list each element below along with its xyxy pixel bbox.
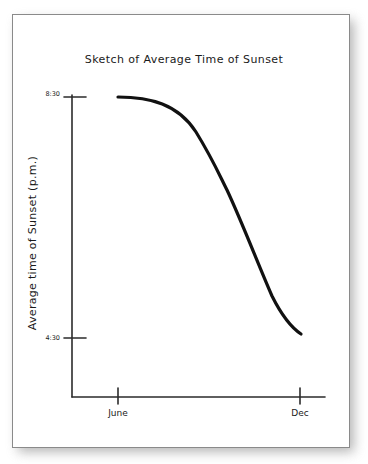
sunset-line-chart: Sketch of Average Time of Sunset Average… (0, 0, 368, 464)
sunset-curve-line (118, 97, 301, 334)
x-tick-label-june: June (107, 408, 128, 418)
y-tick-label-lower: 4:30 (45, 334, 60, 342)
sketch-screenshot: Sketch of Average Time of Sunset Average… (0, 0, 368, 464)
x-tick-label-dec: Dec (291, 408, 308, 418)
y-tick-label-upper: 8:30 (45, 90, 60, 98)
page-title: Sketch of Average Time of Sunset (85, 53, 284, 66)
y-axis-title: Average time of Sunset (p.m.) (26, 156, 39, 330)
